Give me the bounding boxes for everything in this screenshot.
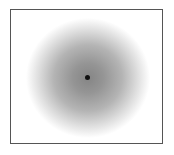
center-dot-marker: [85, 75, 90, 80]
